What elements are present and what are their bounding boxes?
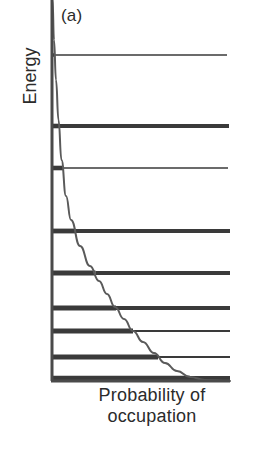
panel-label: (a) <box>61 6 82 26</box>
energy-levels-group <box>52 55 230 378</box>
figure-container: (a) Energy Probability of occupation <box>0 0 256 455</box>
x-axis-title: Probability of occupation <box>72 385 232 427</box>
y-axis-title: Energy <box>20 28 40 124</box>
x-axis-title-line-1: Probability of <box>72 385 232 406</box>
occupation-probability-curve <box>53 0 231 381</box>
x-axis-title-line-2: occupation <box>72 406 232 427</box>
